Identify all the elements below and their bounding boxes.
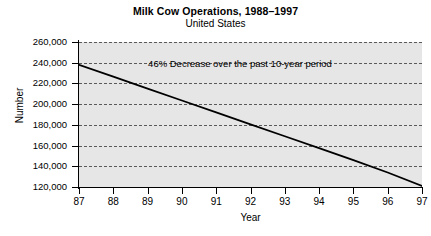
x-axis-tick	[148, 188, 149, 194]
x-axis-tick	[251, 188, 252, 194]
x-axis-tick	[388, 188, 389, 194]
chart-container: Milk Cow Operations, 1988–1997 United St…	[0, 0, 431, 236]
x-axis-tick	[285, 188, 286, 194]
x-axis-tick	[319, 188, 320, 194]
x-axis-line	[78, 187, 423, 188]
x-axis-tick	[182, 188, 183, 194]
x-axis-tick	[353, 188, 354, 194]
y-axis-title: Number	[14, 71, 25, 141]
x-axis-tick	[113, 188, 114, 194]
chart-subtitle: United States	[0, 18, 431, 30]
x-axis-tick	[422, 188, 423, 194]
y-axis-tick-label: 140,000	[7, 161, 67, 171]
x-axis-tick-label: 96	[373, 196, 403, 208]
y-axis-tick-label: 240,000	[7, 58, 67, 68]
x-axis-tick-label: 97	[407, 196, 431, 208]
chart-annotation: 46% Decrease over the past 10-year perio…	[100, 58, 380, 70]
x-axis-tick-label: 92	[236, 196, 266, 208]
x-axis-tick-label: 90	[167, 196, 197, 208]
x-axis-tick-label: 88	[98, 196, 128, 208]
x-axis-tick-label: 87	[64, 196, 94, 208]
x-axis-tick	[216, 188, 217, 194]
y-axis-tick-label: 260,000	[7, 37, 67, 47]
x-axis-tick-label: 91	[201, 196, 231, 208]
x-axis-tick-label: 89	[133, 196, 163, 208]
x-axis-tick-label: 95	[338, 196, 368, 208]
x-axis-title: Year	[79, 212, 422, 223]
y-axis-tick-label: 120,000	[7, 182, 67, 192]
series-polyline	[79, 65, 422, 186]
chart-title: Milk Cow Operations, 1988–1997	[0, 5, 431, 17]
x-axis-tick-label: 93	[270, 196, 300, 208]
y-axis-tick-label: 160,000	[7, 141, 67, 151]
x-axis-tick-label: 94	[304, 196, 334, 208]
x-axis-tick	[79, 188, 80, 194]
